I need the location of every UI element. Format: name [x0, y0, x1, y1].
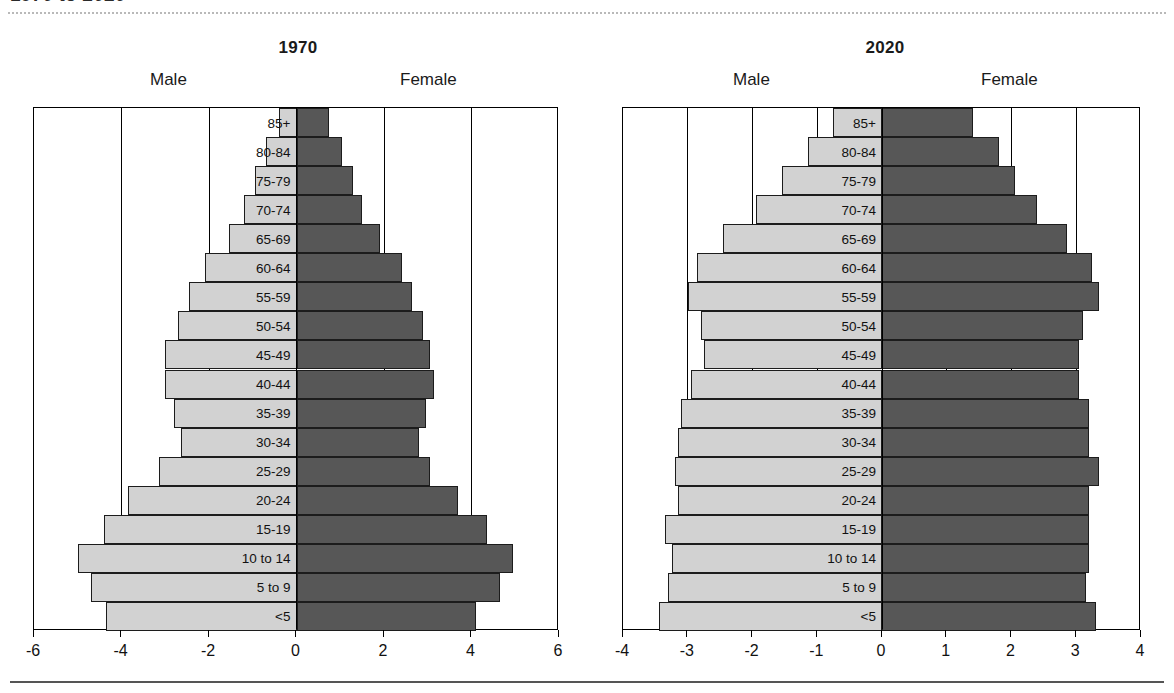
plot-area-2020: 85+80-8475-7970-7465-6960-6455-5950-5445… [622, 107, 1140, 630]
age-group-label: 30-34 [256, 435, 291, 450]
age-group-label: 40-44 [256, 377, 291, 392]
age-group-label: 75-79 [841, 173, 876, 188]
age-group-label: 35-39 [841, 406, 876, 421]
male-bar[interactable] [106, 602, 296, 631]
male-legend-label-1970: Male [150, 70, 187, 90]
age-group-label: 50-54 [256, 318, 291, 333]
female-bar[interactable] [297, 166, 354, 195]
age-group-label: 20-24 [841, 493, 876, 508]
female-bar[interactable] [297, 108, 330, 137]
female-bar[interactable] [882, 195, 1037, 224]
pyramid-panel-1970: 1970 Male Female 85+80-8475-7970-7465-69… [0, 0, 596, 693]
x-axis-tick [816, 630, 817, 637]
x-axis-tick-label: 0 [851, 642, 911, 660]
female-bar[interactable] [882, 282, 1099, 311]
x-axis-tick [686, 630, 687, 637]
zero-axis-line [882, 108, 883, 629]
x-axis-tick [881, 630, 882, 637]
female-bar[interactable] [297, 137, 343, 166]
female-bar[interactable] [882, 370, 1079, 399]
female-bar[interactable] [297, 573, 500, 602]
age-group-label: 85+ [268, 115, 291, 130]
age-group-label: 45-49 [256, 347, 291, 362]
age-group-label: 55-59 [841, 289, 876, 304]
zero-axis-line [296, 108, 297, 629]
female-bar[interactable] [882, 486, 1089, 515]
age-group-label: 40-44 [841, 377, 876, 392]
age-group-label: 60-64 [841, 260, 876, 275]
male-bar[interactable] [659, 602, 882, 631]
female-bar[interactable] [882, 224, 1067, 253]
female-bar[interactable] [297, 282, 413, 311]
age-group-label: 80-84 [256, 144, 291, 159]
x-axis-tick-label: -6 [3, 642, 63, 660]
x-axis-tick [1075, 630, 1076, 637]
x-axis-tick-label: -4 [91, 642, 151, 660]
age-group-label: 10 to 14 [827, 551, 876, 566]
age-group-label: 70-74 [841, 202, 876, 217]
x-axis-tick-label: 4 [441, 642, 501, 660]
x-axis-tick [558, 630, 559, 637]
female-bar[interactable] [882, 602, 1096, 631]
x-axis-tick [470, 630, 471, 637]
female-bar[interactable] [882, 573, 1086, 602]
age-group-label: 25-29 [841, 464, 876, 479]
x-axis-tick [208, 630, 209, 637]
female-bar[interactable] [882, 253, 1092, 282]
age-group-label: 30-34 [841, 435, 876, 450]
female-bar[interactable] [882, 399, 1089, 428]
female-bar[interactable] [297, 370, 435, 399]
x-axis-tick-label: -1 [786, 642, 846, 660]
female-bar[interactable] [297, 457, 430, 486]
female-bar[interactable] [297, 195, 363, 224]
x-axis-tick [751, 630, 752, 637]
age-group-label: 60-64 [256, 260, 291, 275]
female-bar[interactable] [882, 137, 999, 166]
x-axis-tick-label: -3 [657, 642, 717, 660]
age-group-label: 5 to 9 [842, 580, 876, 595]
female-bar[interactable] [882, 311, 1083, 340]
x-axis-tick [120, 630, 121, 637]
female-bar[interactable] [297, 311, 424, 340]
x-axis-tick [945, 630, 946, 637]
x-axis-tick [1140, 630, 1141, 637]
female-bar[interactable] [297, 428, 420, 457]
x-axis-tick-label: 1 [916, 642, 976, 660]
female-bar[interactable] [297, 486, 459, 515]
female-bar[interactable] [297, 340, 430, 369]
female-bar[interactable] [882, 166, 1015, 195]
female-bar[interactable] [882, 428, 1089, 457]
female-bar[interactable] [297, 544, 514, 573]
age-group-label: 65-69 [841, 231, 876, 246]
x-axis-tick-label: 2 [353, 642, 413, 660]
age-group-label: <5 [861, 609, 876, 624]
female-bar[interactable] [882, 457, 1099, 486]
female-bar[interactable] [882, 108, 973, 137]
bottom-divider [10, 681, 1164, 683]
panel-year-label: 1970 [0, 38, 596, 58]
female-legend-label-1970: Female [400, 70, 457, 90]
age-group-label: <5 [275, 609, 290, 624]
age-group-label: 50-54 [841, 318, 876, 333]
age-group-label: 75-79 [256, 173, 291, 188]
male-legend-label-2020: Male [733, 70, 770, 90]
x-axis-tick-label: 0 [266, 642, 326, 660]
female-bar[interactable] [297, 602, 476, 631]
x-axis-tick [295, 630, 296, 637]
age-group-label: 45-49 [841, 347, 876, 362]
x-axis-tick-label: 6 [528, 642, 588, 660]
x-axis-tick [622, 630, 623, 637]
female-bar[interactable] [297, 515, 487, 544]
female-bar[interactable] [882, 515, 1089, 544]
female-bar[interactable] [882, 544, 1089, 573]
age-group-label: 15-19 [256, 522, 291, 537]
female-bar[interactable] [297, 399, 426, 428]
age-group-label: 65-69 [256, 231, 291, 246]
female-bar[interactable] [297, 253, 402, 282]
age-group-label: 15-19 [841, 522, 876, 537]
age-group-label: 70-74 [256, 202, 291, 217]
x-axis-tick-label: 3 [1045, 642, 1105, 660]
female-bar[interactable] [297, 224, 380, 253]
x-axis-tick-label: -2 [722, 642, 782, 660]
female-bar[interactable] [882, 340, 1079, 369]
